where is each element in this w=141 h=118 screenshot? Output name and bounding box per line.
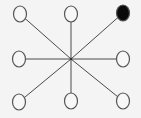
node-middle-left [13, 51, 26, 67]
node-middle-right [117, 51, 130, 67]
star-diagram [0, 0, 141, 118]
edge-bottom-left [19, 59, 71, 102]
node-top-left [14, 6, 27, 22]
node-bottom-right [117, 93, 130, 109]
edges [19, 13, 123, 102]
edge-top-left [20, 14, 71, 59]
edge-top-right [71, 13, 123, 59]
edge-bottom-right [71, 59, 123, 101]
node-bottom-left [13, 94, 26, 110]
node-top-center [65, 6, 78, 22]
center-hub [70, 58, 72, 60]
node-bottom-center [65, 93, 78, 109]
node-top-right-filled [117, 5, 130, 21]
